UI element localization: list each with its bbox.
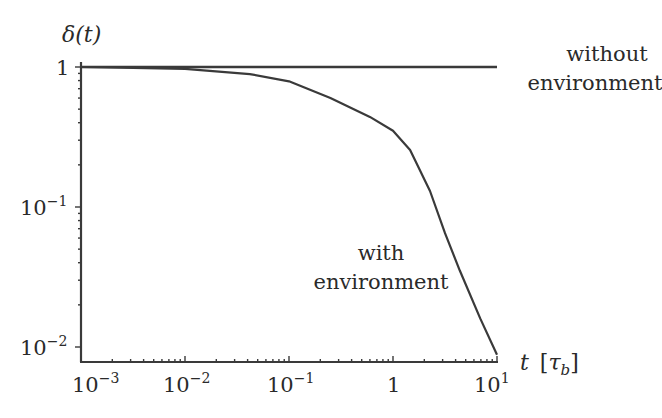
y-ticks: [75, 67, 81, 347]
annotation-with-line1: with: [358, 241, 405, 265]
ytick-label-1e-1: 10−1: [20, 193, 67, 220]
xtick-label-1e-3: 10−3: [72, 370, 119, 397]
ytick-label-1e-2: 10−2: [20, 333, 67, 360]
y-axis-label: δ(t): [62, 22, 101, 47]
series-with-environment: [81, 67, 497, 355]
axes: [80, 62, 498, 362]
ytick-label-1: 1: [56, 56, 69, 80]
annotation-without-line1: without: [566, 42, 648, 66]
xtick-label-1e-1: 10−1: [267, 370, 314, 397]
xtick-label-1e1: 101: [474, 370, 510, 397]
annotation-without-line2: environment: [527, 71, 662, 95]
decay-chart: δ(t) 1 10−1 10−2 10−3 10−2 10−1 1 101 t …: [0, 0, 662, 418]
annotation-with-line2: environment: [313, 270, 449, 294]
xtick-label-1e-2: 10−2: [163, 370, 210, 397]
xtick-label-1: 1: [387, 373, 400, 397]
x-axis-label: t [τb]: [520, 350, 579, 379]
